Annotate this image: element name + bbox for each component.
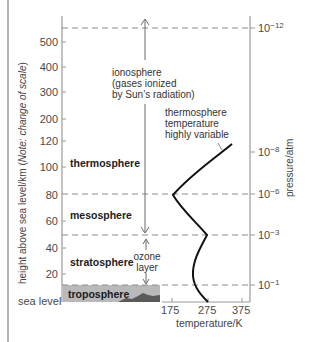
height-tick-400: 400 — [28, 61, 58, 73]
height-tick-100: 100 — [28, 161, 58, 173]
thermosphere-temperature-note: thermosphere temperature highly variable — [165, 107, 229, 140]
height-tick-300: 300 — [28, 86, 58, 98]
pressure-tick-1e-6: 10−6 — [258, 188, 279, 200]
pressure-axis-ticks — [250, 28, 255, 285]
height-tick-60: 60 — [28, 215, 58, 227]
height-tick-40: 40 — [28, 242, 58, 254]
mesosphere-label: mesosphere — [70, 209, 132, 221]
temperature-tick-175: 175 — [161, 304, 179, 316]
troposphere-label: troposphere — [68, 288, 129, 300]
height-axis-title: height above sea level/km (Note: change … — [17, 62, 28, 284]
pressure-axis-title: pressure/atm — [284, 139, 295, 197]
height-tick-120: 120 — [28, 135, 58, 147]
sea-level-label: sea level — [18, 295, 61, 307]
pressure-tick-1e-12: 10−12 — [258, 22, 284, 34]
ozone-layer-note: ozone layer — [133, 251, 161, 273]
height-tick-200: 200 — [28, 113, 58, 125]
ionosphere-range-arrow — [141, 19, 149, 233]
temperature-tick-375: 375 — [232, 304, 250, 316]
annotation-leader-line — [218, 143, 222, 150]
pressure-tick-1e-1: 10−1 — [258, 279, 279, 291]
temperature-profile-curve — [173, 144, 232, 302]
height-tick-20: 20 — [28, 268, 58, 280]
pressure-tick-1e-3: 10−3 — [258, 229, 279, 241]
stratosphere-label: stratosphere — [70, 256, 134, 268]
thermosphere-label: thermosphere — [70, 157, 140, 169]
height-tick-80: 80 — [28, 189, 58, 201]
pressure-tick-1e-8: 10−8 — [258, 146, 279, 158]
temperature-tick-275: 275 — [198, 304, 216, 316]
temperature-axis-title: temperature/K — [176, 317, 243, 329]
ionosphere-note: ionosphere (gases ionized by Sun’s radia… — [112, 67, 195, 100]
height-tick-500: 500 — [28, 36, 58, 48]
